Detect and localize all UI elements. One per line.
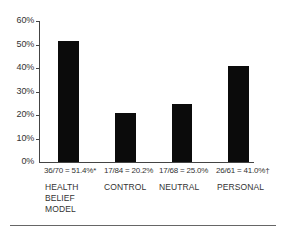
category-label-health-belief-model: HEALTH BELIEF MODEL xyxy=(45,182,79,215)
bar-health-belief-model xyxy=(58,41,79,162)
y-tick-50 xyxy=(36,45,40,46)
value-label-health-belief-model: 36/70 = 51.4%* xyxy=(44,166,96,175)
y-tick-label-10: 10% xyxy=(2,133,34,143)
y-tick-60 xyxy=(36,21,40,22)
y-tick-label-20: 20% xyxy=(2,109,34,119)
bottom-divider xyxy=(10,225,276,226)
bar-personal xyxy=(228,66,249,162)
y-tick-30 xyxy=(36,92,40,93)
y-tick-10 xyxy=(36,139,40,140)
category-label-personal: PERSONAL xyxy=(217,182,264,193)
category-label-neutral: NEUTRAL xyxy=(159,182,199,193)
y-tick-20 xyxy=(36,115,40,116)
value-label-neutral: 17/68 = 25.0% xyxy=(159,166,208,175)
category-label-control: CONTROL xyxy=(104,182,146,193)
bar-neutral xyxy=(172,104,192,162)
bar-control xyxy=(115,113,136,162)
y-tick-label-0: 0% xyxy=(2,156,34,166)
bar-chart: 60% 50% 40% 30% 20% 10% 0% 36/70 = 51.4%… xyxy=(0,0,285,232)
y-tick-label-50: 50% xyxy=(2,39,34,49)
value-label-personal: 26/61 = 41.0%† xyxy=(216,166,269,175)
value-label-control: 17/84 = 20.2% xyxy=(104,166,153,175)
y-tick-label-40: 40% xyxy=(2,62,34,72)
x-axis-line xyxy=(39,162,254,163)
y-tick-label-60: 60% xyxy=(2,15,34,25)
y-tick-label-30: 30% xyxy=(2,86,34,96)
y-tick-40 xyxy=(36,68,40,69)
